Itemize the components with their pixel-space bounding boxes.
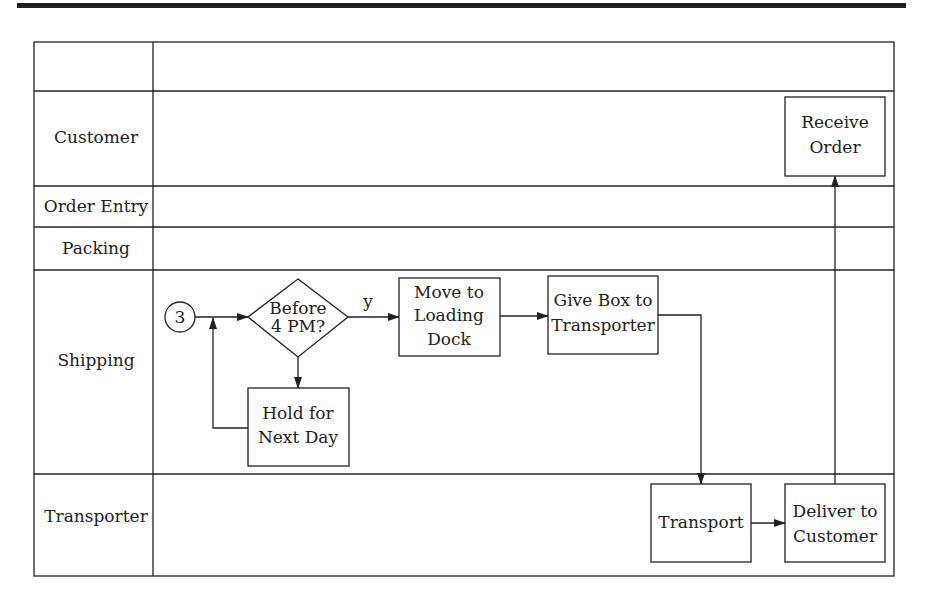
deliver-line-2: Customer bbox=[793, 526, 878, 546]
receive-line-2: Order bbox=[809, 137, 861, 157]
swimlane-diagram: Customer Order Entry Packing Shipping Tr… bbox=[0, 0, 929, 607]
connector-node: 3 bbox=[165, 302, 195, 332]
receive-line-1: Receive bbox=[801, 112, 869, 132]
move-line-2: Loading bbox=[414, 305, 484, 325]
connector-label: 3 bbox=[175, 307, 186, 327]
deliver-line-1: Deliver to bbox=[793, 501, 878, 521]
edge-hold-to-decision bbox=[213, 318, 248, 428]
lane-label-packing: Packing bbox=[62, 238, 130, 258]
give-line-2: Transporter bbox=[551, 315, 655, 335]
decision-node: Before 4 PM? bbox=[248, 279, 348, 357]
transport-line-1: Transport bbox=[658, 512, 744, 532]
decision-line-1: Before bbox=[269, 298, 326, 318]
decision-line-2: 4 PM? bbox=[271, 316, 325, 336]
edge-label-yes: y bbox=[362, 291, 373, 311]
deliver-node: Deliver to Customer bbox=[785, 484, 885, 562]
lane-label-order-entry: Order Entry bbox=[44, 196, 149, 216]
lane-label-shipping: Shipping bbox=[57, 350, 134, 370]
lane-label-customer: Customer bbox=[54, 127, 139, 147]
lane-label-transporter: Transporter bbox=[44, 506, 148, 526]
hold-node: Hold for Next Day bbox=[248, 388, 349, 466]
move-line-3: Dock bbox=[427, 329, 471, 349]
transport-node: Transport bbox=[651, 484, 751, 562]
move-node: Move to Loading Dock bbox=[399, 278, 500, 356]
edge-give-to-transport bbox=[658, 315, 701, 484]
receive-node: Receive Order bbox=[785, 97, 885, 176]
hold-line-2: Next Day bbox=[258, 427, 339, 447]
give-line-1: Give Box to bbox=[554, 290, 653, 310]
give-node: Give Box to Transporter bbox=[548, 276, 658, 354]
hold-line-1: Hold for bbox=[262, 403, 334, 423]
move-line-1: Move to bbox=[414, 282, 484, 302]
